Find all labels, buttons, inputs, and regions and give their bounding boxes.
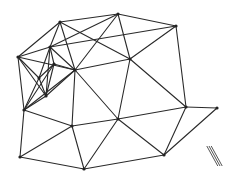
edge-N-P	[84, 119, 118, 169]
node-I	[22, 108, 25, 111]
parallel-marks-icon	[207, 146, 222, 166]
parallel-line	[209, 146, 220, 166]
node-F	[73, 68, 76, 71]
node-H	[184, 105, 187, 108]
node-K	[52, 62, 55, 65]
edge-P-Q	[84, 155, 164, 169]
node-N	[116, 117, 119, 120]
edge-G-H	[130, 59, 186, 107]
edge-C-G	[130, 26, 176, 59]
edge-G-F	[75, 59, 130, 70]
edge-I-O	[20, 110, 24, 157]
node-Q	[162, 153, 165, 156]
edge-G-N	[118, 59, 130, 119]
edge-D-E	[18, 47, 50, 57]
node-A	[58, 20, 61, 23]
edge-A-G	[60, 22, 130, 59]
edge-D-J	[18, 57, 39, 78]
mesh-edges	[18, 14, 217, 169]
node-O	[18, 155, 21, 158]
node-J	[37, 76, 40, 79]
edge-N-Q	[118, 119, 164, 155]
edge-B-C	[118, 14, 176, 26]
edge-B-G	[118, 14, 130, 59]
edge-F-N	[75, 70, 118, 119]
edge-M-N	[72, 119, 118, 126]
node-P	[82, 167, 85, 170]
edge-A-D	[18, 22, 60, 57]
edge-I-M	[24, 110, 72, 126]
node-B	[116, 12, 119, 15]
mesh-diagram	[0, 0, 237, 181]
edge-O-P	[20, 157, 84, 169]
node-E	[48, 45, 51, 48]
node-M	[70, 124, 73, 127]
edge-C-E	[50, 26, 176, 47]
edge-M-O	[20, 126, 72, 157]
edge-F-M	[72, 70, 75, 126]
edge-M-P	[72, 126, 84, 169]
edge-C-H	[176, 26, 186, 107]
edge-H-R	[186, 107, 217, 108]
node-L	[44, 94, 47, 97]
edge-N-H	[118, 107, 186, 119]
node-D	[16, 55, 19, 58]
node-C	[174, 24, 177, 27]
node-G	[128, 57, 131, 60]
edge-R-Q	[164, 108, 217, 155]
edge-H-Q	[164, 107, 186, 155]
node-R	[215, 106, 218, 109]
